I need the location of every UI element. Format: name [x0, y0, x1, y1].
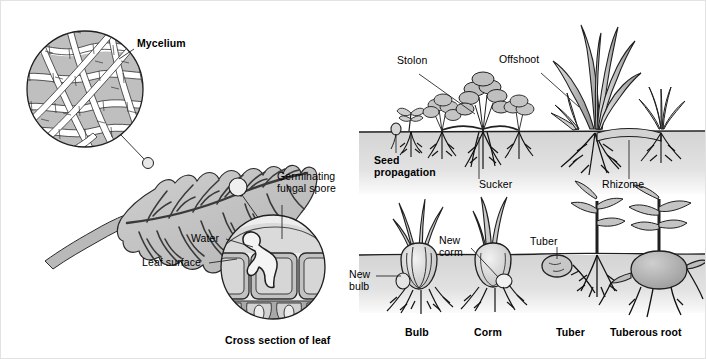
label-sucker: Sucker: [479, 179, 512, 191]
new-bulb-body: [396, 273, 410, 289]
label-mycelium: Mycelium: [137, 38, 186, 50]
tuberous-root-body: [631, 251, 687, 289]
caption-tuber: Tuber: [556, 326, 585, 338]
label-leaf-surface: Leaf surface: [142, 257, 201, 269]
caption-corm: Corm: [474, 326, 502, 338]
label-new-bulb-line1: New: [349, 269, 370, 281]
label-stolon: Stolon: [397, 55, 427, 67]
caption-cross-section-of-leaf: Cross section of leaf: [225, 334, 330, 346]
label-tuber-callout: Tuber: [530, 236, 558, 248]
caption-bulb: Bulb: [405, 326, 429, 338]
label-new-corm-line2: corm: [439, 247, 463, 259]
label-germinating-spore-line1: Germinating: [277, 171, 335, 183]
diagram-artwork: [1, 1, 706, 359]
label-seed-propagation-line2: propagation: [374, 167, 436, 179]
grass-blades: [553, 25, 641, 129]
bottom-propagation-scene: [359, 181, 706, 317]
label-water: Water: [191, 233, 219, 245]
label-seed-propagation-line1: Seed: [374, 155, 400, 167]
label-offshoot: Offshoot: [499, 54, 539, 66]
mycelium-sample-spot: [143, 158, 154, 169]
label-germinating-spore-line2: fungal spore: [277, 183, 336, 195]
biology-figure: Mycelium Germinating fungal spore Water …: [0, 0, 706, 359]
label-new-bulb-line2: bulb: [349, 281, 369, 293]
leaf-infection-spot: [229, 178, 247, 196]
label-new-corm-line1: New: [439, 235, 460, 247]
label-rhizome: Rhizome: [602, 179, 644, 191]
stolon-runners: [442, 126, 518, 130]
mycelium-leader-line: [121, 135, 144, 159]
caption-tuberous-root: Tuberous root: [610, 326, 682, 338]
